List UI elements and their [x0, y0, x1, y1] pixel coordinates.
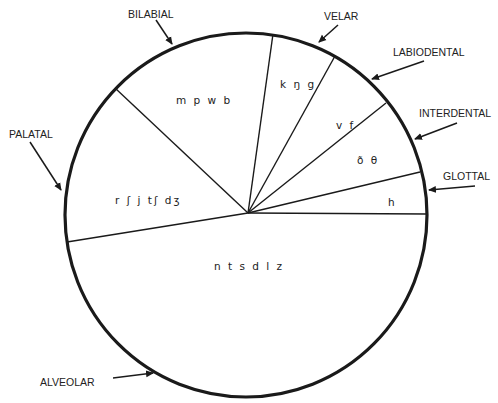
sounds-labiodental: v f — [336, 119, 355, 131]
arrow-glottal — [429, 186, 475, 190]
label-palatal: PALATAL — [9, 128, 53, 140]
divider-palatal-alveolar — [67, 213, 248, 242]
arrow-bilabial — [156, 20, 172, 44]
arrow-velar — [319, 25, 338, 42]
outer-circle — [65, 33, 427, 397]
label-arrows — [30, 20, 475, 378]
arrow-interdental — [415, 123, 457, 139]
divider-lines — [67, 34, 427, 242]
sounds-interdental: ð θ — [357, 154, 379, 166]
articulation-diagram — [0, 0, 498, 403]
sounds-bilabial: m p w b — [176, 94, 232, 106]
label-bilabial: BILABIAL — [128, 8, 174, 20]
label-glottal: GLOTTAL — [443, 170, 490, 182]
sounds-glottal: h — [388, 196, 397, 208]
label-alveolar: ALVEOLAR — [40, 376, 95, 388]
sounds-velar: k ŋ g — [280, 78, 316, 90]
label-labiodental: LABIODENTAL — [393, 46, 465, 58]
sounds-palatal: r ʃ j tʃ dʒ — [115, 194, 182, 206]
arrow-alveolar — [113, 373, 153, 378]
label-interdental: INTERDENTAL — [419, 107, 491, 119]
sounds-alveolar: n t s d l z — [214, 260, 284, 272]
divider-glottal-alveolar — [248, 213, 427, 214]
arrow-labiodental — [372, 61, 424, 79]
arrow-palatal — [30, 142, 61, 190]
label-velar: VELAR — [324, 10, 358, 22]
divider-bilabial-velar — [248, 34, 273, 213]
